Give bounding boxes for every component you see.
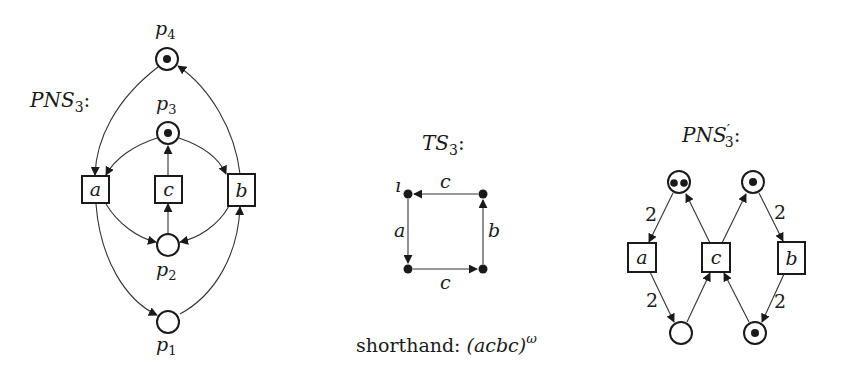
ts-shorthand: shorthand: (acbc)ω (356, 331, 537, 356)
place-p3-label: p3 (156, 92, 176, 117)
pns3-net: PNS3: p4 p3 p2 p1 (29, 17, 255, 358)
ts-edge-label-a: a (394, 219, 405, 241)
ts-initial-marker: ı (395, 174, 401, 196)
place-top-right (742, 171, 764, 193)
transition-a: a (82, 176, 109, 203)
arc-p3-to-a (106, 138, 157, 175)
transition-c-prime: c (702, 243, 730, 272)
ts-edge-label-c-top: c (440, 170, 451, 192)
ts-state (404, 265, 413, 274)
weight-ptr-to-b: 2 (774, 201, 786, 223)
place-p2: p2 (156, 234, 179, 283)
place-p4-label: p4 (155, 17, 175, 42)
token (749, 178, 757, 186)
arc-b-to-p2 (180, 206, 229, 242)
arc-c-to-ptr (722, 194, 746, 243)
place-p1-label: p1 (156, 333, 176, 358)
transition-b-label: b (785, 247, 797, 269)
place-bottom-right (744, 322, 766, 344)
arc-p1-to-b (180, 207, 240, 314)
weight-a-to-pbl: 2 (646, 289, 658, 311)
pns3-prime-title: PNS′3: (681, 122, 741, 150)
transition-b-prime: b (778, 242, 805, 274)
ts-edge-label-c-bottom: c (440, 271, 451, 293)
transition-a-prime: a (628, 243, 656, 272)
token (163, 55, 171, 63)
arc-pbl-to-c (687, 273, 710, 322)
ts3-system: TS3: ı a c b c shorthand: (acbc)ω (356, 131, 537, 356)
pns3-title: PNS3: (29, 88, 90, 115)
pns3-prime-net: PNS′3: 2 2 2 2 (628, 122, 805, 344)
place-p2-label: p2 (156, 258, 176, 283)
transition-b-label: b (235, 179, 247, 201)
arc-a-to-p1 (96, 204, 157, 315)
ts-state (479, 265, 488, 274)
transition-a-label: a (90, 178, 101, 200)
arc-p4-to-a (95, 67, 158, 175)
ts-state (479, 190, 488, 199)
weight-ptl-to-a: 2 (645, 203, 657, 225)
token (670, 179, 678, 187)
weight-b-to-pbr: 2 (774, 290, 786, 312)
transition-c-label: c (711, 246, 722, 268)
ts-state-initial (404, 190, 413, 199)
place-p3: p3 (156, 92, 179, 144)
transition-a-label: a (636, 246, 647, 268)
place-p1: p1 (156, 311, 179, 358)
arc-pbr-to-c (724, 273, 749, 322)
token (680, 179, 688, 187)
transition-b: b (228, 174, 255, 206)
transition-c-label: c (163, 178, 174, 200)
place-top-left (668, 171, 690, 193)
ts3-title: TS3: (422, 131, 465, 158)
token (751, 329, 759, 337)
place-p4: p4 (155, 17, 178, 70)
arc-b-to-p4 (178, 66, 240, 174)
ts-edge-label-b: b (488, 219, 500, 241)
arc-c-to-ptl (686, 194, 710, 243)
place-bottom-left (670, 322, 692, 344)
token (164, 129, 172, 137)
diagram-canvas: PNS3: p4 p3 p2 p1 (0, 0, 843, 376)
arc-p3-to-b (179, 138, 226, 174)
arc-a-to-p2 (106, 204, 156, 242)
transition-c: c (155, 176, 182, 203)
